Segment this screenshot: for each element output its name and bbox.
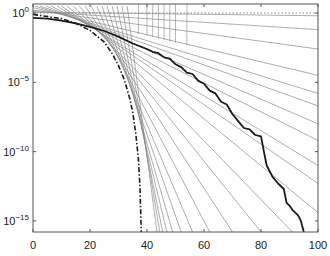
x-tick-label: 100 bbox=[309, 239, 327, 251]
measured-error-line bbox=[33, 18, 304, 232]
x-tick-label: 40 bbox=[141, 239, 153, 251]
bound-line bbox=[33, 14, 141, 232]
data-series bbox=[33, 13, 318, 232]
convergence-chart: 020406080100 10010−510−1010−15 bbox=[0, 0, 330, 256]
y-tick-label: 10−10 bbox=[3, 144, 29, 158]
tangent-line bbox=[127, 6, 157, 232]
x-tick-label: 60 bbox=[198, 239, 210, 251]
vertical-guide-lines bbox=[138, 4, 186, 46]
y-tick-label: 10−5 bbox=[8, 74, 30, 88]
tangent-line bbox=[61, 6, 318, 183]
x-tick-label: 80 bbox=[255, 239, 267, 251]
y-tick-label: 100 bbox=[12, 5, 29, 19]
x-axis: 020406080100 bbox=[30, 4, 327, 251]
tangent-line bbox=[91, 6, 210, 232]
x-tick-label: 0 bbox=[30, 239, 36, 251]
x-tick-label: 20 bbox=[84, 239, 96, 251]
y-tick-label: 10−15 bbox=[3, 213, 29, 227]
tangent-line bbox=[122, 6, 160, 232]
tangent-line bbox=[67, 6, 318, 213]
